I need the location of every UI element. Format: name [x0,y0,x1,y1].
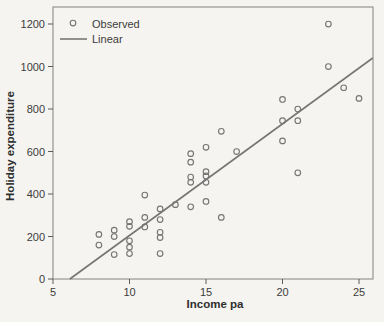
plot-frame [53,7,373,279]
x-tick-label: 25 [353,286,365,298]
scatter-chart-figure: 510152025 020040060080010001200 Observed… [0,0,384,322]
y-tick-label: 600 [27,146,45,158]
x-axis-label: Income pa [187,298,244,310]
data-point [142,215,148,221]
y-tick-label: 1000 [21,61,45,73]
data-point [127,244,133,250]
data-point [127,238,133,244]
data-point [295,106,301,112]
legend-observed-label: Observed [92,18,140,30]
data-point [96,242,102,248]
y-axis-label: Holiday expenditure [4,91,16,201]
observed-points [96,21,362,257]
data-point [188,159,194,165]
y-tick-label: 1200 [21,18,45,30]
data-point [219,215,225,221]
data-point [203,199,209,205]
data-point [295,170,301,176]
scatter-plot: 510152025 020040060080010001200 Observed… [0,0,384,322]
y-tick-label: 800 [27,103,45,115]
data-point [111,234,117,240]
data-point [295,118,301,124]
y-tick-label: 0 [39,273,45,285]
data-point [111,227,117,233]
y-tick-label: 400 [27,188,45,200]
legend-observed-marker-icon [70,20,76,26]
data-point [356,96,362,102]
x-tick-label: 20 [276,286,288,298]
data-point [341,85,347,91]
data-point [203,144,209,150]
data-point [127,251,133,257]
data-point [157,217,163,223]
data-point [234,149,240,155]
data-point [326,64,332,70]
x-tick-label: 5 [50,286,56,298]
y-tick-label: 200 [27,231,45,243]
legend: Observed Linear [60,18,140,46]
data-point [326,21,332,27]
data-point [188,151,194,157]
x-tick-label: 10 [123,286,135,298]
data-point [111,252,117,258]
data-point [280,138,286,144]
data-point [280,97,286,103]
data-point [142,192,148,198]
data-point [280,118,286,124]
x-axis-ticks: 510152025 [50,279,365,298]
data-point [219,129,225,135]
data-point [157,206,163,212]
data-point [96,232,102,238]
legend-linear-label: Linear [92,33,123,45]
regression-line [70,58,373,279]
data-point [188,204,194,210]
x-tick-label: 15 [200,286,212,298]
y-axis-ticks: 020040060080010001200 [21,18,53,285]
data-point [157,251,163,257]
